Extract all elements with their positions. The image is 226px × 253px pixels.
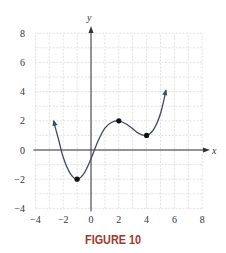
x-tick-label: 0 xyxy=(89,214,94,225)
x-tick-label: 2 xyxy=(116,214,121,225)
curve-end-arrow-icon xyxy=(162,89,167,95)
axes: xy xyxy=(33,12,217,211)
y-tick-label: −4 xyxy=(14,203,25,214)
x-tick-label: 8 xyxy=(200,214,205,225)
x-tick-label: −4 xyxy=(30,214,41,225)
y-tick-label: 0 xyxy=(20,145,25,156)
figure-caption: FIGURE 10 xyxy=(11,233,214,247)
x-tick-label: 4 xyxy=(144,214,149,225)
y-tick-label: 6 xyxy=(20,57,25,68)
y-tick-label: 4 xyxy=(20,86,25,97)
y-tick-label: −2 xyxy=(14,174,25,185)
curve xyxy=(52,89,167,179)
y-tick-label: 2 xyxy=(20,115,25,126)
x-tick-label: −2 xyxy=(58,214,69,225)
marked-point xyxy=(75,177,80,182)
y-tick-label: 8 xyxy=(20,28,25,39)
tick-labels: −4−202468−4−202468 xyxy=(14,28,204,225)
x-tick-label: 6 xyxy=(172,214,177,225)
y-axis-arrow-icon xyxy=(89,26,94,33)
function-curve xyxy=(53,90,166,179)
y-axis-label: y xyxy=(86,12,92,23)
marked-point xyxy=(116,118,121,123)
marked-point xyxy=(144,133,149,138)
x-axis-label: x xyxy=(211,145,217,156)
function-graph: xy −4−202468−4−202468 xyxy=(0,0,226,253)
x-axis-arrow-icon xyxy=(203,148,210,153)
